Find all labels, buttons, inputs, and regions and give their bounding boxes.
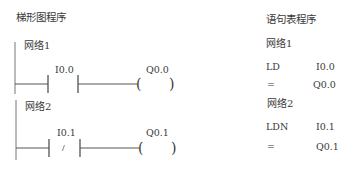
stl-n1-line2-operand: Q0.0 <box>313 79 336 91</box>
stl-n2-line1-op: LDN <box>266 121 288 133</box>
coil-n1-address: Q0.0 <box>146 64 169 76</box>
stl-n1-line1-op: LD <box>266 61 280 73</box>
contact-n1-address: I0.0 <box>55 64 74 76</box>
coil-n1-left-paren: ( <box>136 76 141 92</box>
coil-n2-right-paren: ) <box>171 140 176 156</box>
stl-title: 语句表程序 <box>266 13 316 25</box>
stl-n1-line1-operand: I0.0 <box>316 61 335 73</box>
contact-n2-nc-slash: / <box>62 142 65 154</box>
ladder-title: 梯形图程序 <box>16 11 66 23</box>
coil-n1-right-paren: ) <box>169 76 174 92</box>
contact-n2-address: I0.1 <box>57 127 76 139</box>
stl-n1-line2-op: = <box>267 79 275 91</box>
stl-n2-line1-operand: I0.1 <box>316 121 335 133</box>
stl-n2-line2-operand: Q0.1 <box>316 141 339 153</box>
stl-network-2-label: 网络2 <box>267 98 293 110</box>
stl-n2-line2-op: = <box>267 141 275 153</box>
stl-network-1-label: 网络1 <box>266 38 292 50</box>
ladder-network-1-label: 网络1 <box>24 40 50 52</box>
ladder-network-2-label: 网络2 <box>25 101 51 113</box>
coil-n2-address: Q0.1 <box>146 127 169 139</box>
coil-n2-left-paren: ( <box>138 140 143 156</box>
